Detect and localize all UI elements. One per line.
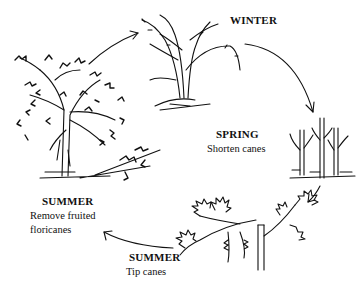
summer-tip-title: SUMMER — [129, 251, 180, 264]
summer-fruiting-plant-icon — [15, 55, 160, 180]
pruning-cycle-diagram: WINTER SPRING Shorten canes SUMMER Tip c… — [0, 0, 363, 287]
arrow-summer-tip-to-summer-remove — [104, 231, 173, 248]
summer-tip-plant-icon — [176, 190, 318, 270]
spring-caption: Shorten canes — [207, 143, 266, 155]
winter-plant-icon — [142, 15, 240, 110]
summer-tip-caption: Tip canes — [126, 266, 166, 278]
winter-title: WINTER — [230, 14, 277, 27]
arrow-winter-to-spring — [245, 44, 314, 112]
summer-remove-caption-line1: Remove fruited — [30, 210, 96, 222]
summer-remove-caption-line2: floricanes — [30, 224, 71, 236]
arrow-summer-to-winter — [89, 31, 138, 64]
illustration-layer — [0, 0, 363, 287]
summer-remove-title: SUMMER — [42, 195, 93, 208]
spring-title: SPRING — [216, 128, 259, 141]
spring-plant-icon — [290, 118, 355, 178]
